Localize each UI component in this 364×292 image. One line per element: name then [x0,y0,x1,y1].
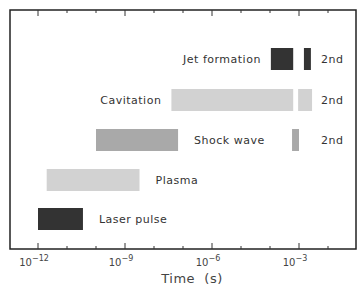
x-tick-labels: 10−1210−910−610−3 [19,254,307,268]
bar [47,169,140,191]
bar-label: Laser pulse [99,213,167,226]
bars: Jet formation2ndCavitation2ndShock wave2… [38,48,343,230]
x-axis-label: Time (s) [160,271,223,286]
second-label: 2nd [321,53,343,66]
timeline-chart: Jet formation2ndCavitation2ndShock wave2… [0,0,364,292]
bar [171,89,293,111]
bar [96,129,178,151]
bar-label: Shock wave [194,134,265,147]
second-label: 2nd [321,134,343,147]
series-cavitation: Cavitation2nd [100,89,343,111]
series-jet-formation: Jet formation2nd [182,48,343,70]
x-tick-label: 10−12 [19,254,49,268]
x-tick-label: 10−9 [109,254,134,268]
series-shock-wave: Shock wave2nd [96,129,343,151]
bar-second [298,89,312,111]
bar-second [292,129,299,151]
x-tick-label: 10−3 [283,254,308,268]
bar-label: Plasma [156,174,199,187]
series-plasma: Plasma [47,169,198,191]
bar-second [304,48,311,70]
x-tick-label: 10−6 [196,254,221,268]
bar-label: Cavitation [100,94,161,107]
second-label: 2nd [321,94,343,107]
series-laser-pulse: Laser pulse [38,208,167,230]
bar [271,48,293,70]
bar-label: Jet formation [182,53,261,66]
bar [38,208,83,230]
